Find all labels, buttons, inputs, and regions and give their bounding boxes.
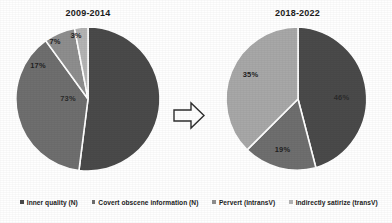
pie-chart-figure: 2009-2014 73% 17% 7% 3% 2018-2022 (0, 0, 392, 223)
legend-swatch-icon (212, 200, 216, 204)
left-slice-label-73: 73% (60, 94, 75, 103)
legend-label: Indirectly satirize (transV) (296, 199, 378, 206)
right-slice-label-35: 35% (243, 70, 258, 79)
chart-legend: Inner quality (N) Covert obscene informa… (0, 195, 392, 209)
left-pie: 73% 17% 7% 3% (12, 23, 164, 175)
legend-swatch-icon (289, 200, 293, 204)
legend-label: Inner quality (N) (27, 199, 78, 206)
right-chart-title: 2018-2022 (203, 8, 392, 18)
left-slice-73 (79, 27, 160, 171)
left-slice-label-17: 17% (30, 61, 45, 70)
right-pie-svg (222, 23, 374, 175)
left-slice-label-7: 7% (49, 37, 60, 46)
legend-swatch-icon (92, 200, 96, 204)
chart-panel-2009-2014: 2009-2014 73% 17% 7% 3% (0, 0, 176, 195)
legend-item-covert-obscene-information[interactable]: Covert obscene information (N) (92, 199, 199, 206)
right-slice-label-19: 19% (275, 145, 290, 154)
legend-item-indirectly-satirize[interactable]: Indirectly satirize (transV) (289, 199, 378, 206)
transition-arrow (172, 100, 206, 131)
arrow-right-icon (172, 100, 206, 131)
legend-label: Covert obscene information (N) (98, 199, 198, 206)
left-pie-svg (12, 23, 164, 175)
left-chart-title: 2009-2014 (0, 8, 176, 18)
legend-item-inner-quality[interactable]: Inner quality (N) (20, 199, 78, 206)
legend-swatch-icon (20, 200, 24, 204)
left-slice-label-3: 3% (70, 31, 81, 40)
right-slice-label-46: 46% (334, 93, 349, 102)
legend-label: Pervert (IntransV) (219, 199, 275, 206)
chart-panel-2018-2022: 2018-2022 46% 19% 35% (203, 0, 392, 195)
legend-item-pervert[interactable]: Pervert (IntransV) (212, 199, 275, 206)
right-pie: 46% 19% 35% (222, 23, 374, 175)
